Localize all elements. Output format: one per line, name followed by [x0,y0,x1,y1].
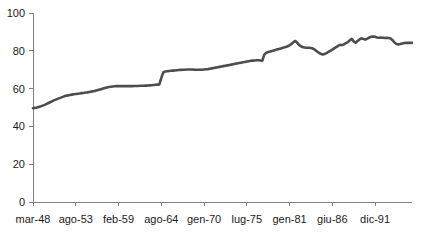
data-series-line [33,36,412,108]
x-tick-label: feb-59 [103,213,134,225]
x-tick-label: mar-48 [16,213,51,225]
x-tick-label: dic-91 [360,213,390,225]
x-tick-label: gen-81 [272,213,306,225]
x-tick-label: ago-53 [59,213,93,225]
y-tick-label: 60 [13,83,25,95]
x-tick-label: gen-70 [187,213,221,225]
y-axis: 020406080100 [7,7,33,208]
y-tick-label: 100 [7,7,25,19]
x-tick-label: giu-86 [317,213,348,225]
line-chart: 020406080100 mar-48ago-53feb-59ago-64gen… [0,0,424,234]
chart-container: 020406080100 mar-48ago-53feb-59ago-64gen… [0,0,424,234]
y-tick-label: 20 [13,158,25,170]
x-axis: mar-48ago-53feb-59ago-64gen-70lug-75gen-… [16,202,412,225]
y-tick-label: 40 [13,120,25,132]
y-tick-group: 020406080100 [7,7,33,208]
x-tick-label: lug-75 [232,213,263,225]
x-tick-label: ago-64 [144,213,178,225]
x-tick-group: mar-48ago-53feb-59ago-64gen-70lug-75gen-… [16,202,390,225]
y-tick-label: 80 [13,45,25,57]
y-tick-label: 0 [19,196,25,208]
